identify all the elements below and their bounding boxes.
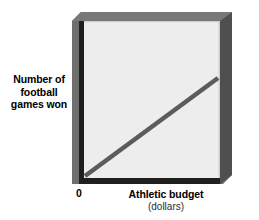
y-axis-label-line-2: football	[2, 86, 76, 99]
scatterplot-figure: Number of football games won 0 Athletic …	[0, 0, 259, 220]
origin-tick-label: 0	[72, 187, 86, 199]
x-axis-label: Athletic budget (dollars)	[96, 188, 236, 213]
plot-slab-svg	[72, 12, 232, 184]
slab-right-side	[220, 12, 232, 184]
face-right-hairline	[219, 21, 221, 178]
plot-slab-3d	[72, 12, 232, 184]
x-axis-border	[79, 178, 220, 184]
y-axis-label-line-3: games won	[2, 98, 76, 111]
x-axis-units: (dollars)	[96, 201, 236, 213]
y-axis-label: Number of football games won	[2, 73, 76, 111]
plot-face	[79, 21, 220, 184]
y-axis-border	[79, 21, 84, 184]
y-axis-label-line-1: Number of	[2, 73, 76, 86]
face-top-hairline	[84, 21, 220, 22]
slab-top-side	[72, 12, 232, 21]
x-axis-title: Athletic budget	[96, 188, 236, 201]
